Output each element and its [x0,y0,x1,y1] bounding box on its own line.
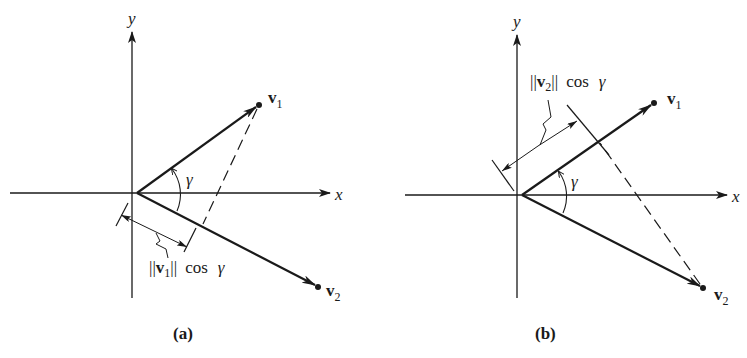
v2-endpoint [315,284,321,290]
v1-endpoint [651,100,657,106]
projection-dashed-line [600,143,700,284]
y-axis-label: y [511,12,521,31]
bracket-arrow-left [121,215,152,230]
bracket-tick-end [184,228,196,252]
panel-b-caption: (b) [535,324,556,343]
panel-a-caption: (a) [173,324,193,343]
x-axis-label: x [334,185,343,204]
angle-label: γ [571,172,579,191]
x-axis-label: x [731,187,740,206]
bracket-tick-start [116,203,128,226]
y-axis-label: y [126,9,136,28]
v2-endpoint [700,285,706,291]
vector-projection-figure: y x v1 v2 γ ||v1||cosγ (a) [0,0,747,358]
panel-a: y x v1 v2 γ ||v1||cosγ (a) [10,9,343,343]
angle-arc [559,172,567,213]
vector-v2 [522,195,700,286]
projection-label: ||v1||cosγ [149,258,226,280]
v1-endpoint [256,102,262,108]
v1-label: v1 [268,88,283,111]
angle-label: γ [186,170,194,189]
panel-b: y x v1 v2 γ ||v2||cosγ (b) [405,12,740,343]
bracket-tick-end [567,105,609,155]
v2-label: v2 [326,281,341,304]
v1-label: v1 [667,89,682,112]
vector-v1 [137,107,256,193]
v2-label: v2 [714,285,729,308]
vector-v1 [522,105,651,195]
bracket-arrow-left [502,146,538,171]
projection-label: ||v2||cosγ [530,72,607,94]
angle-arc [172,169,180,211]
